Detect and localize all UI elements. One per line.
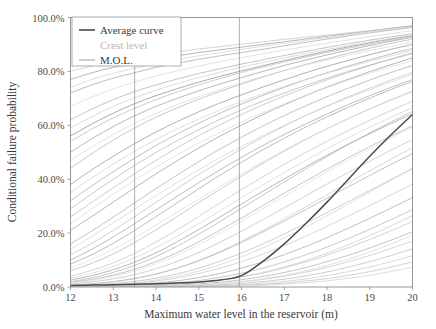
x-tick-label: 15 — [194, 292, 205, 303]
y-tick-label: 40.0% — [37, 174, 64, 185]
y-tick-label: 20.0% — [37, 228, 64, 239]
legend-label-crest-level: Crest level — [100, 39, 147, 51]
chart-legend[interactable]: Average curve Crest level M.O.L. — [72, 17, 181, 66]
conditional-failure-probability-chart: 121314151617181920 0.0%20.0%40.0%60.0%80… — [0, 0, 436, 329]
x-tick-label: 13 — [108, 292, 119, 303]
x-tick-label: 12 — [65, 292, 76, 303]
x-tick-label: 20 — [407, 292, 418, 303]
y-tick-label: 100.0% — [32, 13, 65, 24]
x-tick-label: 19 — [365, 292, 376, 303]
x-tick-label: 16 — [236, 292, 247, 303]
x-axis-title: Maximum water level in the reservoir (m) — [144, 308, 338, 321]
y-axis-title: Conditional failure probability — [6, 81, 19, 222]
x-tick-label: 17 — [279, 292, 290, 303]
y-tick-label: 60.0% — [37, 120, 64, 131]
y-tick-label: 80.0% — [37, 66, 64, 77]
x-tick-label: 18 — [322, 292, 333, 303]
y-tick-label: 0.0% — [43, 282, 65, 293]
chart-figure: 121314151617181920 0.0%20.0%40.0%60.0%80… — [0, 0, 436, 329]
legend-label-mol: M.O.L. — [100, 54, 133, 66]
legend-label-average-curve: Average curve — [100, 24, 164, 36]
x-tick-label: 14 — [151, 292, 162, 303]
